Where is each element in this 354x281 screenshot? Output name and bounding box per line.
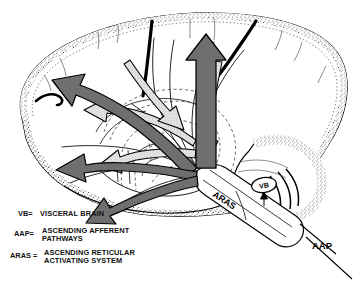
legend-desc-vb: VISCERAL BRAIN [40,209,104,218]
legend: VB= VISCERAL BRAIN AAP= ASCENDING AFFERE… [10,209,136,265]
legend-desc-aras-line2: ACTIVATING SYSTEM [44,256,122,265]
legend-item-aras: ARAS = ASCENDING RETICULAR ACTIVATING SY… [10,248,136,265]
brainstem-group: VB ARAS [194,165,352,279]
legend-item-aap: AAP= ASCENDING AFFERENT PATHWAYS [14,226,130,243]
aap-label: AAP [312,240,333,251]
legend-abbr-vb: VB= [18,209,33,218]
vb-label: VB [259,181,270,189]
legend-desc-aap-line2: PATHWAYS [42,234,83,243]
legend-item-vb: VB= VISCERAL BRAIN [18,209,104,218]
legend-abbr-aap: AAP= [14,229,35,238]
brain-arousal-pathway-diagram: VB ARAS [0,0,354,281]
legend-abbr-aras: ARAS = [10,251,38,260]
aap-fiber-lines [300,224,352,279]
